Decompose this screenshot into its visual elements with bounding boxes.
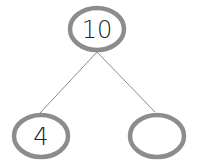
number-bond-diagram: 10 4 — [0, 0, 197, 165]
connector-line-left — [40, 52, 97, 113]
whole-value: 10 — [82, 16, 113, 44]
part-node-left: 4 — [14, 115, 68, 157]
part-node-right[interactable] — [130, 115, 184, 157]
part-value-left: 4 — [33, 123, 48, 151]
connector-line-right — [97, 52, 155, 112]
whole-node: 10 — [70, 8, 124, 50]
part-circle-right-empty[interactable] — [130, 115, 184, 157]
